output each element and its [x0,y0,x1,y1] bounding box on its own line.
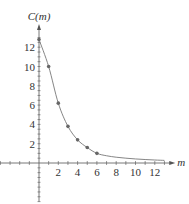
x-axis-label: m [177,156,185,168]
y-tick-label: 12 [24,41,35,53]
x-tick-label: 8 [113,166,119,178]
data-point [47,65,51,69]
curve-path [39,39,164,160]
data-point [76,138,80,142]
y-axis-label: C(m) [28,10,51,23]
data-point [66,125,70,129]
y-axis-arrow-icon [37,24,41,30]
chart: 2468101224681012mC(m) [0,0,189,204]
x-tick-label: 12 [149,166,160,178]
x-tick-label: 2 [56,166,62,178]
y-tick-label: 4 [30,118,36,130]
y-tick-label: 2 [30,138,36,150]
x-axis-arrow-icon [169,161,175,165]
x-tick-label: 6 [94,166,100,178]
y-tick-label: 10 [24,61,36,73]
data-point [95,152,99,156]
x-tick-label: 4 [75,166,81,178]
y-tick-label: 6 [30,99,36,111]
chart-svg: 2468101224681012mC(m) [0,0,189,204]
data-points [37,38,98,155]
fitted-curve [39,39,164,160]
data-point [57,101,61,105]
y-tick-label: 8 [30,80,36,92]
x-tick-label: 10 [130,166,142,178]
data-point [85,146,89,150]
axis-labels: 2468101224681012mC(m) [24,10,185,178]
data-point [37,38,41,42]
